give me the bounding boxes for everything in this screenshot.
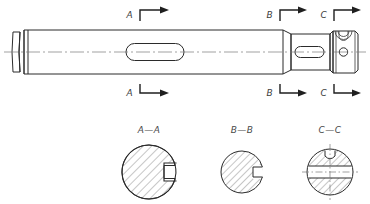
section-marker-c-bottom[interactable]: C: [320, 84, 361, 98]
section-view-c-c: C—C: [302, 125, 358, 200]
section-marker-a-top-arrow: [160, 7, 169, 14]
top-arc-recess-inner: [338, 31, 349, 37]
section-marker-b-bottom[interactable]: B: [267, 84, 307, 98]
section-marker-c-bottom-label: C: [320, 88, 327, 98]
section-marker-c-bottom-line: [334, 84, 352, 93]
section-marker-c-top-label: C: [320, 10, 327, 20]
engineering-drawing-svg: A B C A: [0, 0, 370, 204]
section-marker-c-top-arrow: [352, 7, 361, 14]
section-marker-b-top[interactable]: B: [267, 7, 307, 22]
section-markers-bottom: A B C: [126, 84, 361, 98]
section-marker-b-bottom-label: B: [267, 88, 273, 98]
section-marker-a-bottom-line: [140, 84, 160, 93]
section-view-b-b-label: B—B: [231, 125, 254, 135]
section-b-b-hatch: [218, 148, 268, 198]
section-markers-top: A B C: [126, 7, 361, 22]
section-a-a-hatch: [118, 141, 180, 203]
section-view-c-c-label: C—C: [319, 125, 342, 135]
section-view-b-b: B—B: [218, 125, 268, 198]
section-marker-a-top-label: A: [126, 10, 133, 20]
section-marker-a-bottom-arrow: [160, 90, 169, 97]
section-marker-a-top-line: [140, 10, 160, 21]
section-marker-c-top-line: [334, 10, 352, 21]
section-marker-b-bottom-line: [280, 84, 298, 93]
section-marker-b-top-line: [280, 10, 298, 21]
technical-drawing-canvas: A B C A: [0, 0, 370, 204]
collar-groove-line-1: [19, 32, 20, 72]
section-marker-b-bottom-arrow: [298, 90, 307, 97]
section-marker-b-top-label: B: [267, 10, 273, 20]
section-marker-c-bottom-arrow: [352, 90, 361, 97]
section-marker-a-top[interactable]: A: [126, 7, 169, 22]
section-marker-a-bottom-label: A: [126, 88, 133, 98]
section-view-a-a-label: A—A: [137, 125, 161, 135]
top-arc-recess-outer: [335, 31, 352, 39]
section-marker-b-top-arrow: [298, 7, 307, 14]
main-shaft-view: [4, 30, 366, 74]
section-marker-c-top[interactable]: C: [320, 7, 361, 22]
section-marker-a-bottom[interactable]: A: [126, 84, 169, 98]
section-view-a-a: A—A: [118, 125, 180, 203]
